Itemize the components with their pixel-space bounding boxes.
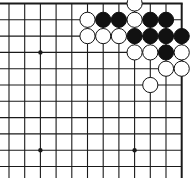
black-stone <box>127 28 142 43</box>
star-point <box>38 50 42 54</box>
black-stone <box>174 28 189 43</box>
white-stone <box>143 45 158 60</box>
star-point <box>132 148 136 152</box>
black-stone <box>158 28 173 43</box>
white-stone <box>158 61 173 76</box>
black-stone <box>111 12 126 27</box>
star-point <box>38 148 42 152</box>
white-stone <box>80 28 95 43</box>
white-stone <box>127 0 142 11</box>
white-stone <box>174 45 189 60</box>
go-board <box>0 0 190 178</box>
white-stone <box>80 12 95 27</box>
black-stone <box>143 12 158 27</box>
black-stone <box>96 12 111 27</box>
white-stone <box>127 45 142 60</box>
white-stone <box>174 61 189 76</box>
black-stone <box>158 12 173 27</box>
white-stone <box>96 28 111 43</box>
white-stone <box>127 12 142 27</box>
white-stone <box>143 77 158 92</box>
black-stone <box>158 45 173 60</box>
black-stone <box>143 28 158 43</box>
white-stone <box>111 28 126 43</box>
